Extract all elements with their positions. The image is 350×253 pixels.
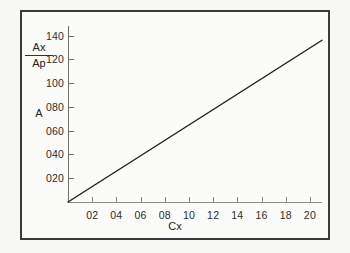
x-tick [213,197,214,202]
y-tick-label-wrap: 140 [38,30,64,42]
x-tick-label: 02 [86,209,98,221]
y-tick-label: 020 [46,172,64,184]
x-tick-label-wrap: 16 [250,205,274,223]
x-axis-line [68,202,322,203]
figure-container: Ax Ap A 020040060080100120140 0204060810… [0,0,350,253]
x-tick-label-wrap: 04 [104,205,128,223]
x-tick-label-wrap: 02 [80,205,104,223]
x-tick-label: 18 [280,209,292,221]
x-tick-label: 20 [304,209,316,221]
y-tick-label-wrap: 060 [38,125,64,137]
y-tick-label-wrap: 080 [38,101,64,113]
x-tick [310,197,311,202]
y-tick [69,107,74,108]
y-tick [69,154,74,155]
x-tick-label: 14 [231,209,243,221]
x-tick-label-wrap: 14 [225,205,249,223]
y-tick [69,131,74,132]
y-tick [69,59,74,60]
y-tick-label: 060 [46,125,64,137]
y-tick-label: 120 [46,53,64,65]
x-tick [286,197,287,202]
y-tick [69,36,74,37]
x-tick-label: 04 [110,209,122,221]
y-tick-label-wrap: 120 [38,53,64,65]
y-tick-label-wrap: 040 [38,148,64,160]
y-axis-line [68,26,69,203]
x-tick [116,197,117,202]
x-tick [141,197,142,202]
y-tick-label-wrap: 020 [38,172,64,184]
x-tick [237,197,238,202]
y-tick-label: 140 [46,30,64,42]
x-tick [165,197,166,202]
x-tick-label-wrap: 18 [274,205,298,223]
x-axis-title: Cx [140,220,210,232]
y-tick [69,178,74,179]
x-tick [262,197,263,202]
y-tick [69,83,74,84]
y-tick-label: 100 [46,77,64,89]
x-tick-label-wrap: 20 [298,205,322,223]
x-tick [189,197,190,202]
y-tick-label: 040 [46,148,64,160]
x-tick-label: 16 [255,209,267,221]
y-tick-label: 080 [46,101,64,113]
y-tick-label-wrap: 100 [38,77,64,89]
x-tick [92,197,93,202]
